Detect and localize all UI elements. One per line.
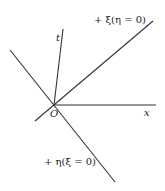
- xi-characteristic-line: [35, 21, 153, 121]
- eta-label: + η(ξ = 0): [44, 157, 96, 167]
- origin-label: O: [50, 109, 58, 119]
- xi-label: + ξ(η = 0): [94, 15, 146, 25]
- characteristic-coordinates-diagram: + ξ(η = 0) t O x + η(ξ = 0): [0, 0, 165, 191]
- x-axis-label: x: [144, 108, 150, 118]
- t-axis-label: t: [56, 33, 60, 43]
